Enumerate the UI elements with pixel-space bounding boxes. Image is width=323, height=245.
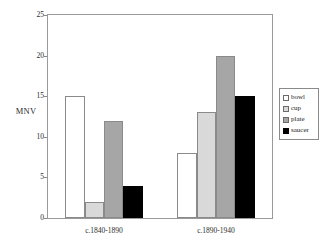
plot-area bbox=[48, 15, 272, 218]
legend-label: cup bbox=[291, 105, 301, 112]
y-tick-label: 25 bbox=[24, 11, 44, 19]
legend-item-cup[interactable]: cup bbox=[283, 103, 316, 114]
plot-frame bbox=[47, 14, 273, 219]
legend-item-bowl[interactable]: bowl bbox=[283, 92, 316, 103]
legend-item-plate[interactable]: plate bbox=[283, 114, 316, 125]
y-axis-label: MNV bbox=[8, 106, 44, 116]
bar-cup-0 bbox=[85, 202, 104, 218]
legend-item-saucer[interactable]: saucer bbox=[283, 125, 316, 136]
chart-legend: bowlcupplatesaucer bbox=[279, 88, 319, 140]
bar-saucer-0 bbox=[123, 186, 142, 218]
y-tick-label: 0 bbox=[24, 214, 44, 222]
y-tick-label: 5 bbox=[24, 173, 44, 181]
legend-label: plate bbox=[291, 116, 305, 123]
legend-swatch-saucer-icon bbox=[283, 128, 289, 134]
x-category-label-1: c.1890-1940 bbox=[176, 226, 256, 235]
y-tick-label: 20 bbox=[24, 52, 44, 60]
bar-bowl-1 bbox=[177, 153, 196, 218]
bar-plate-0 bbox=[104, 121, 123, 218]
legend-swatch-bowl-icon bbox=[283, 95, 289, 101]
legend-label: saucer bbox=[291, 127, 309, 134]
bar-chart: MNV 2520151050 c.1840-1890c.1890-1940 bo… bbox=[0, 0, 323, 245]
bar-saucer-1 bbox=[235, 96, 254, 218]
legend-label: bowl bbox=[291, 94, 305, 101]
bar-cup-1 bbox=[197, 112, 216, 218]
y-tick-label: 10 bbox=[24, 133, 44, 141]
bar-bowl-0 bbox=[65, 96, 84, 218]
legend-swatch-cup-icon bbox=[283, 106, 289, 112]
legend-swatch-plate-icon bbox=[283, 117, 289, 123]
y-tick-label: 15 bbox=[24, 92, 44, 100]
x-category-label-0: c.1840-1890 bbox=[64, 226, 144, 235]
bar-plate-1 bbox=[216, 56, 235, 218]
